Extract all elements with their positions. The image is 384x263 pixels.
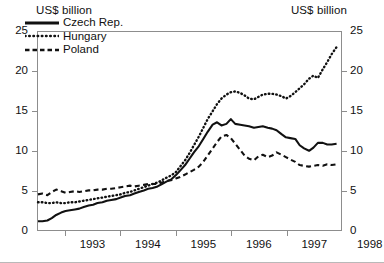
legend-swatch-hungary-icon: [25, 31, 59, 41]
y-axis-unit-label-left: US$ billion: [36, 4, 92, 16]
x-tick-label-1996: 1996: [233, 238, 285, 250]
legend-label-czech-rep: Czech Rep.: [63, 16, 123, 30]
legend-item-poland: Poland: [25, 43, 123, 57]
chart-legend: Czech Rep.HungaryPoland: [25, 16, 123, 57]
y-tick-label-right-0: 0: [350, 225, 376, 235]
legend-item-czech-rep: Czech Rep.: [25, 16, 123, 30]
y-tick-label-left-10: 10: [2, 145, 28, 155]
y-tick-label-left-15: 15: [2, 105, 28, 115]
y-tick-label-left-5: 5: [2, 185, 28, 195]
x-tick-label-1995: 1995: [177, 238, 229, 250]
legend-swatch-czech-rep-icon: [25, 18, 59, 28]
series-line-hungary: [38, 47, 337, 203]
series-line-czech-rep: [38, 119, 337, 221]
y-tick-label-left-20: 20: [2, 65, 28, 75]
x-tick-label-1997: 1997: [288, 238, 340, 250]
chart-figure: US$ billion US$ billion 0510152025 05101…: [0, 0, 384, 262]
x-tick-label-1998: 1998: [344, 238, 384, 250]
x-tick-label-1993: 1993: [66, 238, 118, 250]
x-tick-mark-1993: [65, 231, 66, 236]
x-tick-mark-1995: [176, 231, 177, 236]
y-tick-mark-right-10: [342, 151, 347, 152]
series-line-poland: [38, 135, 337, 195]
y-tick-label-right-10: 10: [350, 145, 376, 155]
y-axis-unit-label-right: US$ billion: [291, 4, 347, 16]
y-tick-label-right-20: 20: [350, 65, 376, 75]
y-tick-label-right-15: 15: [350, 105, 376, 115]
y-tick-mark-right-15: [342, 111, 347, 112]
y-tick-label-left-0: 0: [2, 225, 28, 235]
legend-label-hungary: Hungary: [63, 30, 106, 44]
y-tick-mark-right-5: [342, 191, 347, 192]
y-tick-label-right-5: 5: [350, 185, 376, 195]
legend-label-poland: Poland: [63, 43, 99, 57]
legend-swatch-poland-icon: [25, 45, 59, 55]
x-tick-mark-1997: [287, 231, 288, 236]
x-tick-mark-1994: [120, 231, 121, 236]
series-lines: [38, 32, 341, 230]
plot-area: [37, 31, 342, 231]
y-tick-label-right-25: 25: [350, 25, 376, 35]
legend-item-hungary: Hungary: [25, 30, 123, 44]
y-tick-mark-right-20: [342, 71, 347, 72]
x-tick-label-1994: 1994: [122, 238, 174, 250]
x-tick-mark-1996: [231, 231, 232, 236]
